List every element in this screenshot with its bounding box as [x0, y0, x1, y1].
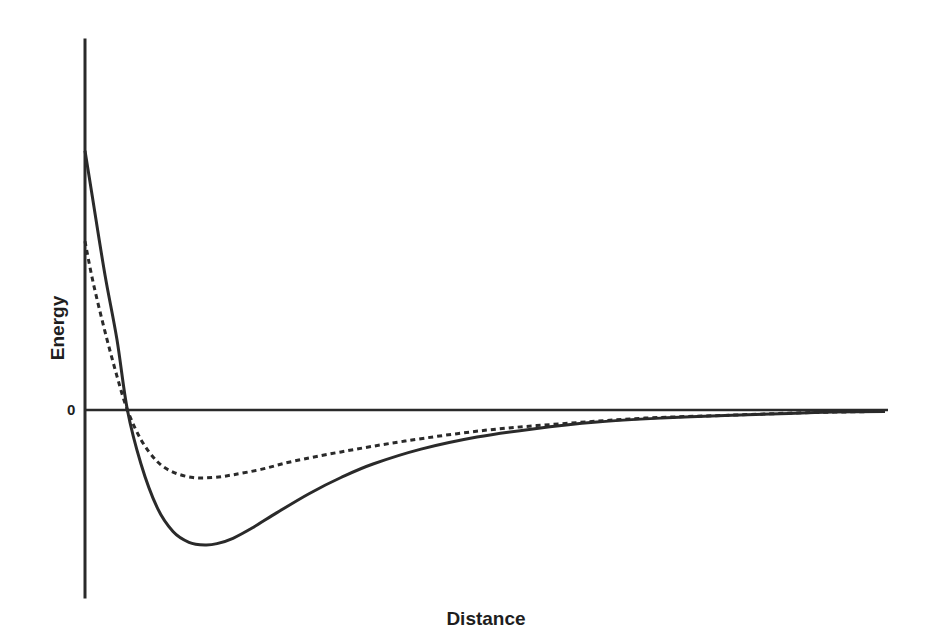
y-axis-label: Energy [47, 296, 69, 360]
y-tick-label-zero: 0 [67, 401, 75, 418]
chart-canvas [0, 0, 929, 644]
x-axis-label: Distance [446, 608, 525, 630]
series-solid-curve [85, 151, 885, 545]
series-dashed-curve [85, 241, 885, 478]
